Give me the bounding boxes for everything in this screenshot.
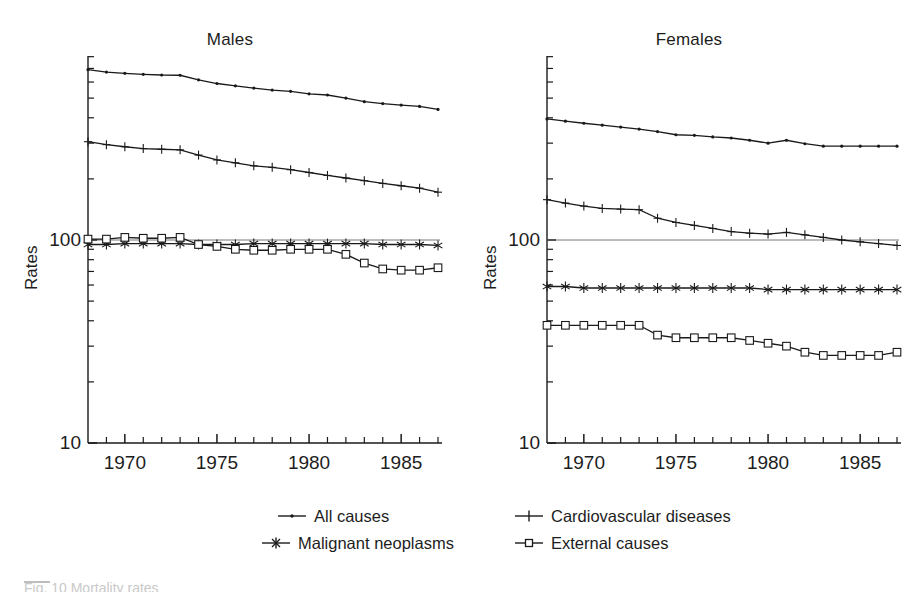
legend-marker-asterisk-icon [261,536,291,550]
plot-area-males: 100101970197519801985 [0,0,460,500]
svg-text:100: 100 [49,229,81,250]
legend-marker-dot-icon [277,509,307,523]
legend-label-external-causes: External causes [551,535,668,552]
svg-text:10: 10 [60,432,81,453]
svg-text:1985: 1985 [839,452,881,473]
chart-panel-males: Males Rates 100101970197519801985 [0,0,460,500]
legend-item-external-causes: External causes [514,535,668,552]
svg-text:1980: 1980 [747,452,789,473]
legend-item-all-causes: All causes [277,508,389,525]
chart-legend: All causes Cardiovascular diseases Malig… [255,508,725,564]
legend-marker-square-icon [514,536,544,550]
svg-text:10: 10 [519,432,540,453]
svg-text:1970: 1970 [563,452,605,473]
svg-text:1970: 1970 [104,452,146,473]
y-axis-label-females: Rates [481,246,501,290]
legend-marker-plus-icon [514,509,544,523]
svg-text:1975: 1975 [196,452,238,473]
figure-caption: Fig. 10 Mortality rates [24,580,159,592]
svg-text:100: 100 [508,229,540,250]
plot-area-females: 100101970197519801985 [459,0,919,500]
legend-label-malignant-neoplasms: Malignant neoplasms [298,535,454,552]
svg-text:1975: 1975 [655,452,697,473]
legend-label-all-causes: All causes [314,508,389,525]
svg-text:1980: 1980 [288,452,330,473]
legend-label-cardiovascular-diseases: Cardiovascular diseases [551,508,731,525]
chart-panel-females: Females 100101970197519801985 [459,0,919,500]
legend-item-cardiovascular-diseases: Cardiovascular diseases [514,508,731,525]
legend-item-malignant-neoplasms: Malignant neoplasms [261,535,454,552]
svg-text:1985: 1985 [380,452,422,473]
